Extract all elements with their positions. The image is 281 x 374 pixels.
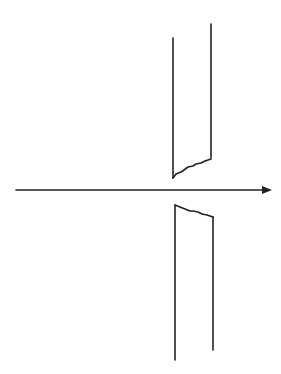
diagram-canvas [0, 0, 281, 374]
background [0, 0, 281, 374]
